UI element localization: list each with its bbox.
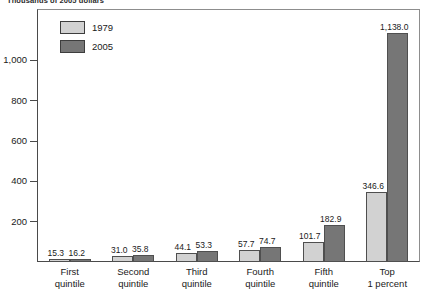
x-axis-category-line: quintile <box>224 278 296 290</box>
x-axis-category-line: quintile <box>161 278 233 290</box>
x-axis-category-line: Second <box>97 266 169 278</box>
legend-label: 2005 <box>92 41 113 52</box>
y-axis-tick: 400 <box>11 176 37 186</box>
bar-group: 346.61,138.0 <box>362 10 412 262</box>
x-axis-category-label: Fifthquintile <box>288 266 360 289</box>
bar-value-label: 35.8 <box>123 244 157 254</box>
bar[interactable] <box>324 225 345 262</box>
y-axis: 2004006008001,000 <box>0 0 37 271</box>
legend-item-1979[interactable]: 1979 <box>60 19 113 35</box>
chart-legend: 1979 2005 <box>60 19 113 57</box>
y-axis-tick-label: 400 <box>11 176 30 186</box>
y-axis-tick: 800 <box>11 96 37 106</box>
bar[interactable] <box>197 251 218 262</box>
y-axis-tick: 600 <box>11 136 37 146</box>
y-axis-tick-label: 600 <box>11 136 30 146</box>
bar-value-label: 101.7 <box>293 231 327 241</box>
bar[interactable] <box>112 256 133 262</box>
legend-swatch-icon <box>60 21 85 34</box>
bar-group: 31.035.8 <box>108 10 158 262</box>
y-axis-tick: 200 <box>11 217 37 227</box>
y-axis-tick-mark <box>30 181 37 182</box>
bar-value-label: 1,138.0 <box>377 22 411 32</box>
x-axis-category-label: Firstquintile <box>34 266 106 289</box>
bar-value-label: 53.3 <box>187 240 221 250</box>
legend-label: 1979 <box>92 22 113 33</box>
bar[interactable] <box>176 253 197 262</box>
bar-group: 57.774.7 <box>235 10 285 262</box>
x-axis-category-line: quintile <box>34 278 106 290</box>
x-axis-category-line: quintile <box>288 278 360 290</box>
x-axis-labels: FirstquintileSecondquintileThirdquintile… <box>38 266 419 299</box>
y-axis-tick: 1,000 <box>3 55 37 65</box>
bar-value-label: 16.2 <box>60 248 94 258</box>
legend-swatch-icon <box>60 40 85 53</box>
bar[interactable] <box>260 247 281 262</box>
x-axis-category-line: Third <box>161 266 233 278</box>
bar[interactable] <box>133 255 154 262</box>
x-axis-category-label: Top1 percent <box>351 266 423 289</box>
y-axis-tick-mark <box>30 60 37 61</box>
x-axis-category-line: Fifth <box>288 266 360 278</box>
y-axis-tick-label: 200 <box>11 217 30 227</box>
x-axis-category-line: quintile <box>97 278 169 290</box>
y-axis-tick-mark <box>30 100 37 101</box>
x-axis-category-line: Fourth <box>224 266 296 278</box>
bar[interactable] <box>239 250 260 262</box>
x-axis-category-label: Fourthquintile <box>224 266 296 289</box>
bar-value-label: 74.7 <box>250 236 284 246</box>
bar-group: 44.153.3 <box>172 10 222 262</box>
bar-value-label: 182.9 <box>314 214 348 224</box>
x-axis-category-label: Secondquintile <box>97 266 169 289</box>
y-axis-tick-mark <box>30 141 37 142</box>
bar-group: 101.7182.9 <box>299 10 349 262</box>
bar-value-label: 346.6 <box>356 181 390 191</box>
bar[interactable] <box>70 259 91 262</box>
x-axis-category-line: First <box>34 266 106 278</box>
bar[interactable] <box>387 33 408 262</box>
x-axis-category-label: Thirdquintile <box>161 266 233 289</box>
legend-item-2005[interactable]: 2005 <box>60 38 113 54</box>
y-axis-tick-label: 800 <box>11 96 30 106</box>
y-axis-tick-label: 1,000 <box>3 55 30 65</box>
bar[interactable] <box>366 192 387 262</box>
x-axis-category-line: Top <box>351 266 423 278</box>
x-axis-category-line: 1 percent <box>351 278 423 290</box>
bar[interactable] <box>303 242 324 263</box>
bar[interactable] <box>49 259 70 262</box>
y-axis-tick-mark <box>30 221 37 222</box>
